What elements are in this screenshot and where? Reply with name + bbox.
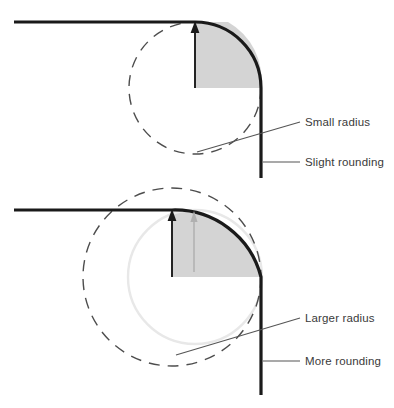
small-radius-panel: Small radius Slight rounding xyxy=(14,21,384,178)
larger-radius-panel: Larger radius More rounding xyxy=(14,188,381,395)
rounding-diagram: Small radius Slight rounding xyxy=(0,0,394,408)
label-larger-radius: Larger radius xyxy=(305,312,375,324)
label-slight-rounding: Slight rounding xyxy=(305,156,384,168)
label-small-radius: Small radius xyxy=(305,116,370,128)
leader-line-larger-radius xyxy=(176,318,300,355)
diagram-canvas: Small radius Slight rounding xyxy=(0,0,394,408)
label-more-rounding: More rounding xyxy=(305,355,381,367)
